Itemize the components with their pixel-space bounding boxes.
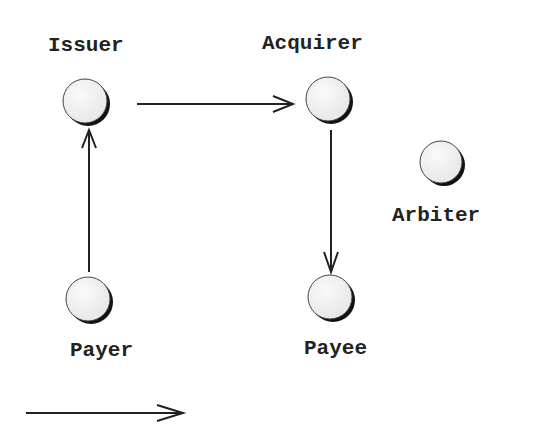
label-arbiter: Arbiter xyxy=(392,204,480,227)
node-payer[interactable] xyxy=(66,277,113,324)
edge-issuer-to-acquirer xyxy=(137,96,293,112)
label-payee: Payee xyxy=(304,337,367,360)
node-acquirer[interactable] xyxy=(306,77,353,124)
label-payer: Payer xyxy=(70,339,133,362)
legend-arrow xyxy=(26,405,183,421)
edge-payer-to-issuer xyxy=(82,130,96,272)
label-issuer: Issuer xyxy=(48,34,124,57)
node-payee[interactable] xyxy=(308,275,355,322)
node-issuer[interactable] xyxy=(63,79,110,126)
node-arbiter[interactable] xyxy=(420,141,465,186)
diagram-canvas: Issuer Acquirer Arbiter Payer Payee xyxy=(0,0,533,438)
edge-acquirer-to-payee xyxy=(324,130,338,272)
label-acquirer: Acquirer xyxy=(262,32,363,55)
